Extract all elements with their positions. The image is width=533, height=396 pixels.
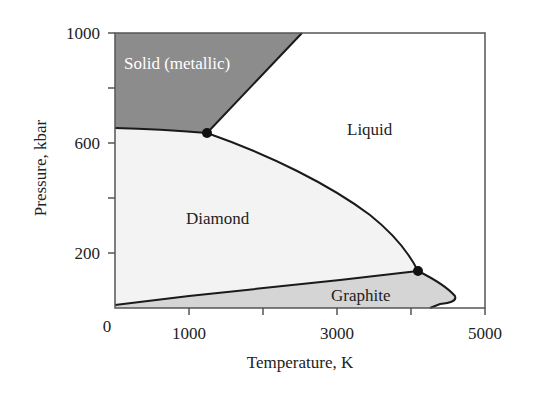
region-label-liquid: Liquid — [347, 120, 393, 139]
y-axis-ticks — [108, 33, 115, 253]
x-axis-ticks — [189, 308, 485, 315]
x-tick-label-5000: 5000 — [468, 324, 502, 343]
phase-diagram-chart: 1000 600 200 0 1000 3000 5000 Temperatur… — [0, 0, 533, 396]
region-label-graphite: Graphite — [331, 286, 390, 305]
x-axis-title: Temperature, K — [247, 353, 354, 372]
y-tick-label-200: 200 — [75, 244, 101, 263]
region-label-solid-metallic: Solid (metallic) — [124, 54, 230, 73]
triple-point-solid-diamond-liquid — [202, 128, 212, 138]
region-label-diamond: Diamond — [186, 209, 250, 228]
triple-point-diamond-graphite-liquid — [413, 266, 423, 276]
y-axis-title: Pressure, kbar — [31, 120, 50, 217]
y-tick-label-1000: 1000 — [66, 24, 100, 43]
x-tick-label-3000: 3000 — [320, 324, 354, 343]
y-tick-label-600: 600 — [75, 134, 101, 153]
x-tick-label-1000: 1000 — [172, 324, 206, 343]
y-tick-label-0: 0 — [103, 317, 112, 336]
